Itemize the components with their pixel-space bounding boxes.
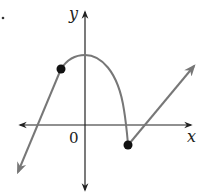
x-axis-label: x [187, 127, 196, 146]
right-ray [129, 66, 194, 144]
bullet-mark [2, 17, 5, 20]
graph-canvas: y x 0 [0, 0, 205, 195]
right-closed-point [124, 141, 133, 150]
left-closed-point [57, 65, 66, 74]
origin-label: 0 [69, 129, 79, 147]
left-ray [18, 69, 61, 172]
y-axis-label: y [68, 4, 79, 23]
